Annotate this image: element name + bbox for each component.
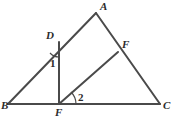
segment-side-AC	[96, 13, 160, 104]
angle-label-1: 1	[50, 57, 56, 69]
vertex-label-A: A	[99, 0, 107, 12]
vertex-label-C: C	[163, 99, 171, 111]
interior-segments	[59, 42, 118, 104]
geometry-figure-svg: A B C D F F 1 2	[0, 0, 173, 118]
vertex-label-D: D	[45, 29, 54, 41]
geometry-figure-canvas: A B C D F F 1 2	[0, 0, 173, 118]
vertex-label-F-side: F	[121, 38, 130, 50]
angle-label-2: 2	[78, 91, 84, 103]
vertex-label-B: B	[0, 99, 8, 111]
vertex-label-F-base: F	[54, 106, 63, 118]
triangle-outline	[8, 13, 160, 104]
figure-labels: A B C D F F 1 2	[0, 0, 171, 118]
segment-F-base-to-F-side	[59, 52, 118, 104]
